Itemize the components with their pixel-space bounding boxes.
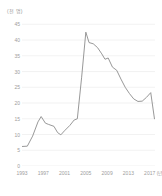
y-tick-label: 35 (4, 53, 20, 58)
plot-area (22, 18, 155, 166)
y-axis-unit-label: (천 명) (7, 8, 23, 15)
series-1-path (22, 32, 154, 146)
x-tick-label: 2013 (123, 170, 134, 176)
series-line (22, 18, 155, 166)
x-tick-label: 1993 (16, 170, 27, 176)
y-tick-label: 5 (4, 148, 20, 153)
x-tick-label: 2005 (80, 170, 91, 176)
x-tick-label: 1997 (38, 170, 49, 176)
x-tick-label: 2001 (59, 170, 70, 176)
y-tick-label: 10 (4, 132, 20, 137)
y-tick-label: 20 (4, 101, 20, 106)
y-tick-label: 30 (4, 69, 20, 74)
y-tick-label: 45 (4, 22, 20, 27)
y-axis: 051015202530354045 (0, 18, 20, 166)
x-axis-unit-label: (년) (157, 170, 162, 176)
y-tick-label: 0 (4, 164, 20, 169)
line-chart: (천 명) 051015202530354045 199319972001200… (0, 0, 162, 196)
y-tick-label: 25 (4, 85, 20, 90)
y-tick-label: 40 (4, 38, 20, 43)
y-tick-label: 15 (4, 116, 20, 121)
x-axis: 1993199720012005200920132017(년) (22, 170, 162, 182)
x-tick-label: 2009 (102, 170, 113, 176)
x-tick-label: 2017 (144, 170, 155, 176)
